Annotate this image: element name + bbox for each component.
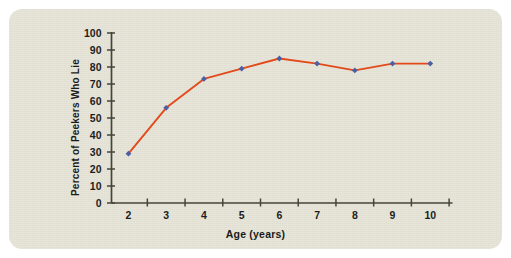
data-series-line <box>128 59 430 154</box>
axis-lines <box>112 32 453 203</box>
data-point-markers <box>126 56 434 157</box>
plot-canvas <box>0 0 511 258</box>
line-chart: Percent of Peekers Who Lie Age (years) 0… <box>0 0 511 258</box>
